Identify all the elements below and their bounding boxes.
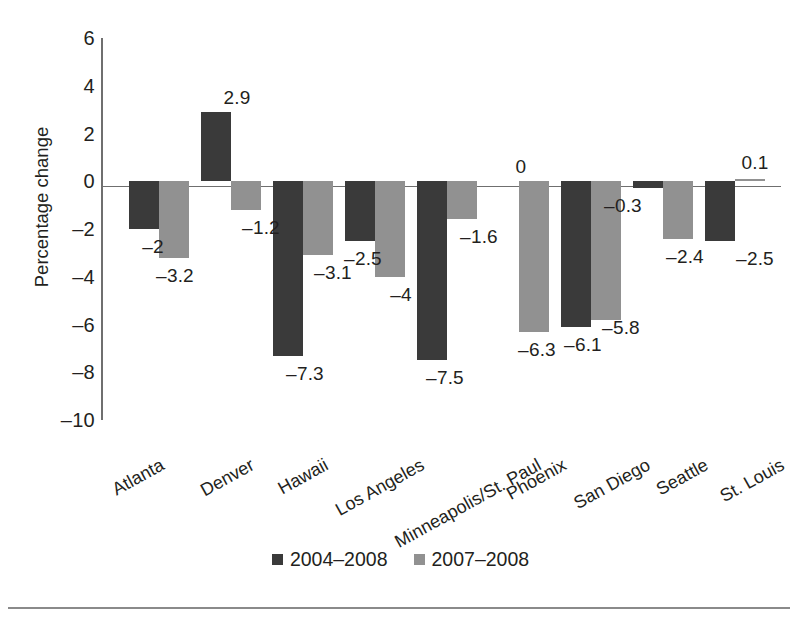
legend-item[interactable]: 2004–2008 <box>272 548 388 571</box>
bar-value-label: –2.4 <box>655 247 715 266</box>
bar-value-label: 2.9 <box>207 88 267 107</box>
bar-group <box>691 38 763 420</box>
bar[interactable] <box>345 181 375 241</box>
bar[interactable] <box>231 181 261 210</box>
bar-group <box>331 38 403 420</box>
chart-legend: 2004–20082007–2008 <box>0 548 801 571</box>
footer-rule <box>8 607 790 609</box>
chart-figure: Percentage change 6420–2–4–6–8–10 –2–3.2… <box>0 0 801 622</box>
bar[interactable] <box>129 181 159 229</box>
bar[interactable] <box>735 179 765 181</box>
bar[interactable] <box>633 181 663 188</box>
bar[interactable] <box>519 181 549 331</box>
bar-value-label: –1.2 <box>231 218 291 237</box>
bar-value-label: –2.5 <box>725 249 785 268</box>
y-tick-label: –4 <box>9 267 95 287</box>
y-tick-label: 4 <box>9 76 95 96</box>
bar-value-label: –4 <box>371 285 431 304</box>
bar-value-label: –2.5 <box>333 249 393 268</box>
legend-item[interactable]: 2007–2008 <box>414 548 530 571</box>
y-tick-label: –2 <box>9 219 95 239</box>
bar[interactable] <box>273 181 303 355</box>
bar-value-label: –6.1 <box>553 335 613 354</box>
bar[interactable] <box>201 112 231 181</box>
y-tick-label: 0 <box>9 171 95 191</box>
bar-value-label: 0 <box>491 157 551 176</box>
bar-value-label: –7.3 <box>275 364 335 383</box>
bar-group <box>547 38 619 420</box>
bar[interactable] <box>303 181 333 255</box>
bar-value-label: –2 <box>123 237 183 256</box>
bar-value-label: –5.8 <box>591 318 651 337</box>
bar-value-label: –7.5 <box>415 368 475 387</box>
legend-label: 2007–2008 <box>432 548 530 570</box>
y-tick-label: 2 <box>9 124 95 144</box>
bar-value-label: 0.1 <box>725 153 785 172</box>
legend-swatch-icon <box>272 554 283 565</box>
bar[interactable] <box>663 181 693 238</box>
bar-value-label: –1.6 <box>449 227 509 246</box>
bar[interactable] <box>561 181 591 327</box>
plot-area: –2–3.22.9–1.2–7.3–3.1–2.5–4–7.5–1.60–6.3… <box>101 38 781 420</box>
y-tick-label: –8 <box>9 362 95 382</box>
bar[interactable] <box>447 181 477 219</box>
y-tick-label: –6 <box>9 315 95 335</box>
legend-label: 2004–2008 <box>290 548 388 570</box>
bar[interactable] <box>705 181 735 241</box>
bar-value-label: –3.2 <box>145 266 205 285</box>
y-tick-label: –10 <box>9 410 95 430</box>
bar-group <box>115 38 187 420</box>
y-tick-label: 6 <box>9 28 95 48</box>
bar[interactable] <box>417 181 447 360</box>
legend-swatch-icon <box>414 554 425 565</box>
bar-group <box>619 38 691 420</box>
bar-value-label: –0.3 <box>593 196 653 215</box>
